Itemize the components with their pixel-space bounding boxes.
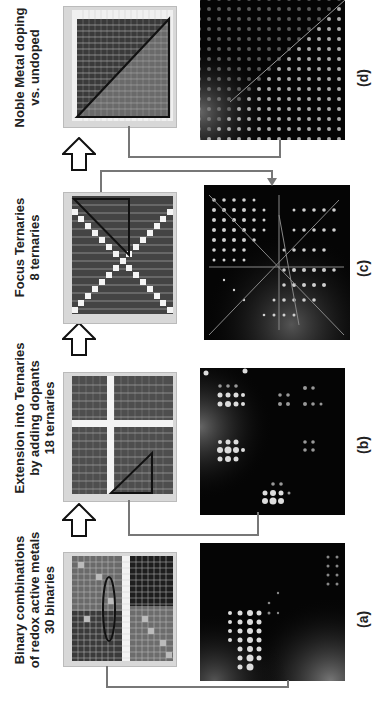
stage-a-title: Binary combinations of redox active meta… bbox=[12, 500, 57, 700]
fluorescence-image-a-graphic bbox=[200, 543, 345, 681]
arrow-b-to-c-icon bbox=[62, 322, 96, 356]
panel-label-d: (d) bbox=[355, 69, 371, 87]
panel-label-c: (c) bbox=[355, 260, 371, 277]
stage-c-title: Focus Ternaries 8 ternaries bbox=[12, 175, 42, 320]
fluorescence-image-d-graphic bbox=[200, 0, 345, 140]
connector-d-v2 bbox=[279, 140, 281, 158]
connector-a-h bbox=[106, 686, 289, 688]
library-map-b-graphic bbox=[64, 373, 176, 501]
library-map-c-graphic bbox=[64, 193, 176, 323]
fluorescence-image-b bbox=[200, 368, 345, 515]
library-map-c bbox=[63, 192, 177, 324]
fluorescence-image-c-graphic bbox=[204, 185, 350, 340]
connector-c-h bbox=[100, 170, 272, 172]
fluorescence-image-a bbox=[200, 543, 345, 681]
connector-a-v2 bbox=[287, 680, 289, 688]
fluorescence-image-c bbox=[204, 185, 350, 340]
library-map-d-graphic bbox=[64, 7, 176, 127]
connector-b-v2 bbox=[257, 512, 259, 536]
stage-b-title: Extension into Ternaries by adding dopan… bbox=[12, 318, 57, 518]
connector-c-top bbox=[100, 170, 102, 192]
library-map-b bbox=[63, 372, 177, 502]
fluorescence-image-d bbox=[200, 0, 345, 140]
connector-d bbox=[128, 126, 130, 158]
arrow-a-to-b-icon bbox=[62, 503, 96, 537]
library-map-a bbox=[63, 552, 177, 667]
library-map-d bbox=[63, 6, 177, 128]
fluorescence-image-b-graphic bbox=[200, 368, 345, 515]
stage-d-title: Noble Metal doping vs. undoped bbox=[12, 5, 42, 130]
connector-b bbox=[128, 500, 130, 536]
connector-a bbox=[106, 666, 108, 686]
panel-label-a: (a) bbox=[355, 611, 371, 628]
connector-d-h bbox=[128, 156, 280, 158]
panel-label-b: (b) bbox=[355, 436, 371, 454]
connector-b-h bbox=[128, 534, 258, 536]
library-map-a-graphic bbox=[64, 553, 176, 666]
arrowhead-c-icon bbox=[267, 178, 277, 186]
arrow-c-to-d-icon bbox=[62, 137, 96, 171]
